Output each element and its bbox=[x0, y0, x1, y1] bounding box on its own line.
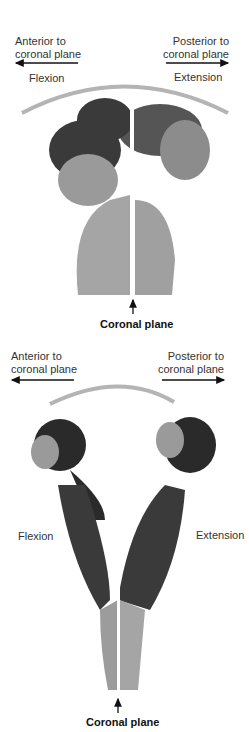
posterior-label: Posterior to coronal plane bbox=[158, 350, 224, 376]
extension-label: Extension bbox=[196, 529, 244, 542]
flexion-label: Flexion bbox=[29, 72, 64, 85]
extension-label: Extension bbox=[174, 71, 222, 84]
posterior-label: Posterior to coronal plane bbox=[163, 35, 229, 61]
anterior-label: Anterior to coronal plane bbox=[15, 35, 81, 61]
coronal-plane-label: Coronal plane bbox=[86, 716, 159, 729]
coronal-plane-label: Coronal plane bbox=[100, 318, 173, 331]
coronal-plane-line bbox=[130, 96, 134, 296]
flexion-label: Flexion bbox=[18, 530, 53, 543]
anterior-label: Anterior to coronal plane bbox=[11, 350, 77, 376]
